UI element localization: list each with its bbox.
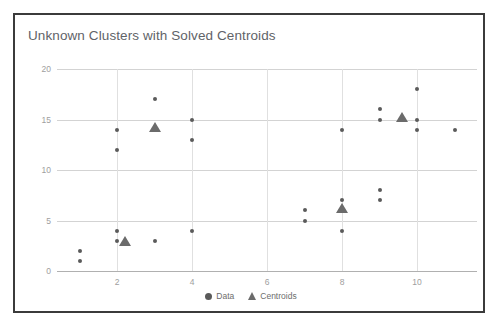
circle-icon — [205, 293, 212, 300]
data-point-marker — [453, 128, 457, 132]
data-point-marker — [78, 249, 82, 253]
y-axis-tick-label: 15 — [29, 115, 51, 125]
data-point-marker — [115, 148, 119, 152]
legend-item-label: Centroids — [260, 291, 296, 301]
data-point-marker — [115, 229, 119, 233]
x-axis-tick-label: 4 — [180, 277, 204, 287]
data-point-marker — [78, 259, 82, 263]
y-axis-tick-label: 10 — [29, 165, 51, 175]
y-gridline — [57, 271, 477, 272]
data-point-marker — [340, 128, 344, 132]
x-axis-tick-label: 2 — [105, 277, 129, 287]
data-point-marker — [415, 118, 419, 122]
y-axis-tick-label: 20 — [29, 64, 51, 74]
data-point-marker — [378, 118, 382, 122]
chart-legend: DataCentroids — [15, 291, 487, 301]
data-point-marker — [378, 188, 382, 192]
data-point-marker — [190, 118, 194, 122]
x-axis-tick-label: 8 — [330, 277, 354, 287]
y-axis-tick-label: 5 — [29, 216, 51, 226]
legend-item-data[interactable]: Data — [205, 291, 234, 301]
centroid-marker — [149, 122, 161, 132]
data-point-marker — [153, 239, 157, 243]
legend-item-centroids[interactable]: Centroids — [248, 291, 296, 301]
centroid-marker — [336, 203, 348, 213]
data-point-marker — [115, 128, 119, 132]
data-point-marker — [415, 128, 419, 132]
data-point-marker — [378, 107, 382, 111]
legend-item-label: Data — [216, 291, 234, 301]
data-point-marker — [190, 229, 194, 233]
centroid-marker — [119, 236, 131, 246]
x-gridline — [192, 69, 193, 271]
x-gridline — [342, 69, 343, 271]
screenshot-root: Unknown Clusters with Solved Centroids 0… — [0, 0, 499, 327]
chart-card: Unknown Clusters with Solved Centroids 0… — [13, 13, 485, 313]
triangle-icon — [248, 292, 256, 300]
data-point-marker — [190, 138, 194, 142]
data-point-marker — [340, 198, 344, 202]
data-point-marker — [415, 87, 419, 91]
data-point-marker — [303, 219, 307, 223]
x-axis-tick-label: 10 — [405, 277, 429, 287]
data-point-marker — [378, 198, 382, 202]
scatter-plot-area: 05101520246810 — [15, 15, 487, 315]
data-point-marker — [303, 208, 307, 212]
y-axis-tick-label: 0 — [29, 266, 51, 276]
data-point-marker — [153, 97, 157, 101]
centroid-marker — [396, 112, 408, 122]
x-axis-tick-label: 6 — [255, 277, 279, 287]
data-point-marker — [340, 229, 344, 233]
x-gridline — [417, 69, 418, 271]
x-gridline — [267, 69, 268, 271]
